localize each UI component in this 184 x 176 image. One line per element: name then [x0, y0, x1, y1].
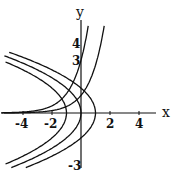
x-tick-label: -2	[44, 117, 57, 131]
curve-line	[1, 26, 104, 113]
y-axis-label: y	[75, 4, 84, 20]
x-tick-label: 2	[106, 117, 114, 131]
x-tick-label: 4	[135, 117, 143, 131]
y-tick-label: 3	[72, 54, 80, 68]
x-axis-label: x	[162, 104, 170, 120]
x-tick-label: -4	[15, 117, 28, 131]
y-tick-label: -3	[68, 159, 81, 173]
y-tick-label: 4	[72, 37, 80, 51]
chart-canvas: y x -4 -2 2 4 4 3 -3	[0, 0, 184, 176]
curves	[1, 26, 104, 168]
